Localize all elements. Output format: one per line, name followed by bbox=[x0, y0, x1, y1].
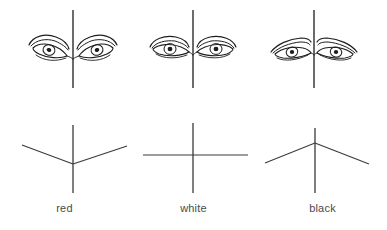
eye-pair-white bbox=[150, 10, 236, 88]
column-label-red: red bbox=[0, 200, 129, 224]
eye-white-right bbox=[193, 36, 236, 57]
axis-diagram-red bbox=[22, 125, 127, 193]
diagram-right-arm-black bbox=[315, 143, 369, 164]
pupil bbox=[46, 47, 52, 52]
pupil bbox=[94, 47, 100, 52]
figure-canvas bbox=[0, 0, 387, 230]
eye-black-left bbox=[271, 38, 314, 60]
column-label-row: red white black bbox=[0, 200, 387, 224]
pupil bbox=[290, 50, 294, 54]
eye-corner-tail bbox=[73, 56, 79, 59]
upper-lid-outer bbox=[197, 36, 236, 47]
pupil bbox=[334, 50, 338, 54]
diagram-left-arm-black bbox=[265, 143, 315, 163]
axis-diagram-black bbox=[265, 128, 369, 193]
eye-black-right bbox=[314, 38, 357, 60]
eye-shape-figure bbox=[0, 0, 387, 230]
pupil bbox=[168, 47, 173, 51]
upper-lid-outer bbox=[150, 36, 189, 47]
eye-white-left bbox=[150, 36, 193, 57]
pupil bbox=[214, 47, 219, 51]
diagram-right-arm-red bbox=[73, 146, 127, 164]
column-label-black: black bbox=[258, 200, 387, 224]
axis-diagram-white bbox=[143, 123, 248, 193]
eye-corner-tail bbox=[67, 56, 73, 59]
column-label-white: white bbox=[129, 200, 258, 224]
eye-red-left bbox=[29, 35, 73, 60]
eye-pair-black bbox=[271, 10, 357, 88]
eye-pair-red bbox=[29, 10, 117, 88]
diagram-left-arm-red bbox=[22, 145, 73, 164]
eye-red-right bbox=[73, 35, 117, 60]
